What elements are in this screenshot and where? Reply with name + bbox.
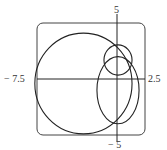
y-max-label: 5 [114, 4, 119, 15]
x-min-label: − 7.5 [4, 73, 25, 84]
y-min-label: − 5 [108, 139, 121, 150]
curve-group [35, 33, 139, 134]
x-max-label: 2.5 [148, 73, 161, 84]
middle-loop-curve [97, 57, 139, 124]
polar-plot: − 7.5 2.5 5 − 5 [0, 0, 167, 150]
